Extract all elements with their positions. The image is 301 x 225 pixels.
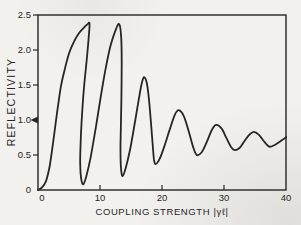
y-axis-title: REFLECTIVITY	[5, 58, 17, 147]
x-tick-label: 20	[157, 192, 168, 203]
reflectivity-chart: 01020304000.51.01.52.02.5	[0, 0, 301, 225]
y-tick-label: 0	[26, 184, 31, 195]
plot-frame	[38, 15, 286, 190]
reflectivity-curve	[38, 23, 289, 190]
x-tick-label: 0	[39, 192, 44, 203]
y-tick-label: 1.5	[18, 79, 31, 90]
y-tick-label: 1.0	[18, 114, 31, 125]
x-tick-label: 40	[281, 192, 292, 203]
scanned-figure: 01020304000.51.01.52.02.5 REFLECTIVITY C…	[0, 0, 301, 225]
x-axis-title: COUPLING STRENGTH |γℓ|	[95, 206, 228, 217]
y-axis-arrowhead-marker	[31, 117, 39, 124]
y-tick-label: 2.5	[18, 9, 31, 20]
y-tick-label: 0.5	[18, 149, 31, 160]
x-tick-label: 30	[219, 192, 230, 203]
x-tick-label: 10	[95, 192, 106, 203]
y-tick-label: 2.0	[18, 44, 31, 55]
